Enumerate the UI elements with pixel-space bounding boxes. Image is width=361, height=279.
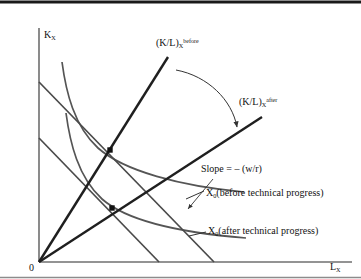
tangency-point-before (107, 147, 112, 152)
x-axis-label: LX (330, 262, 341, 272)
origin-label: 0 (29, 263, 34, 273)
figure-canvas: KX LX 0 (K/L)Xbefore (K/L)Xafter Slope =… (0, 0, 361, 279)
isoquant-before-label: X0(before technical progress) (206, 188, 324, 198)
ray-kl-after-label: (K/L)Xafter (239, 97, 277, 107)
technical-progress-shift-arrow (176, 70, 237, 127)
isocost-line-after (39, 138, 159, 262)
ray-kl-before (39, 57, 168, 262)
slope-label: Slope = – (w/r) (201, 164, 262, 174)
ray-kl-before-label: (K/L)Xbefore (156, 38, 199, 48)
isocost-line-before (39, 82, 214, 262)
tangency-point-after (109, 205, 114, 210)
isoquant-before-leader (186, 191, 204, 199)
isoquant-after-label: X0(after technical progress) (208, 226, 318, 236)
y-axis-label: KX (44, 30, 56, 40)
